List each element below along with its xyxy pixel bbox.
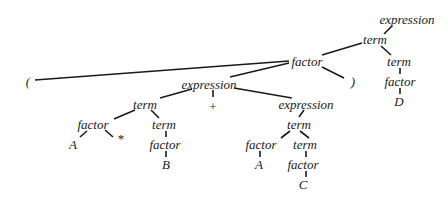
tree-node-term: term: [387, 54, 411, 69]
tree-node-b: B: [162, 157, 170, 172]
tree-node-expression: expression: [278, 97, 333, 112]
parse-tree-svg: expressiontermfactortermfactorD()express…: [0, 0, 448, 204]
tree-edge: [322, 43, 362, 55]
tree-node-expression: expression: [379, 12, 434, 27]
tree-node-term: term: [133, 97, 157, 112]
tree-edge: [281, 131, 290, 138]
tree-node-term: term: [152, 117, 176, 132]
tree-node-factor: factor: [384, 74, 416, 89]
tree-node-term: term: [363, 32, 387, 47]
tree-node-term: term: [293, 137, 317, 152]
tree-node-d: D: [393, 94, 404, 109]
tree-node-a: A: [68, 137, 77, 152]
tree-node-c: C: [299, 177, 308, 192]
tree-node-: +: [209, 99, 216, 114]
tree-node-factor: factor: [291, 54, 323, 69]
tree-edge: [322, 67, 344, 78]
tree-node-: (: [26, 74, 31, 89]
tree-edge: [114, 110, 135, 119]
tree-node-a: A: [254, 157, 263, 172]
tree-node-: ): [350, 74, 355, 89]
tree-node-factor: factor: [287, 157, 319, 172]
tree-node-factor: factor: [77, 117, 109, 132]
tree-node-factor: factor: [149, 137, 181, 152]
tree-nodes: expressiontermfactortermfactorD()express…: [26, 12, 435, 192]
parse-tree-diagram: expressiontermfactortermfactorD()express…: [0, 0, 448, 204]
tree-node-factor: factor: [245, 137, 277, 152]
tree-node-: *: [118, 131, 125, 146]
tree-node-term: term: [287, 117, 311, 132]
tree-edges: [35, 26, 400, 177]
tree-node-expression: expression: [181, 77, 236, 92]
tree-edge: [35, 61, 289, 80]
